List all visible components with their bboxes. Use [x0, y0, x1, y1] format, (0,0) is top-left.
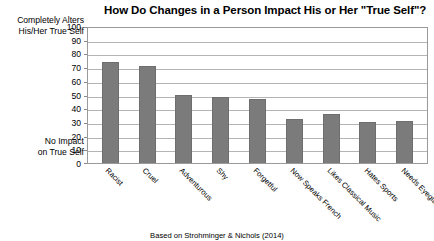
bar-forgetful[interactable] [249, 99, 266, 163]
y-tick-label: 50 [71, 91, 81, 100]
plot-wrapper: 1009080706050403020100 [62, 27, 428, 164]
x-tick-label: Shy [214, 166, 230, 182]
x-axis-labels: RacistCruelAdventurousShyForgetfulNow Sp… [87, 165, 428, 235]
bar-adventurous[interactable] [175, 95, 192, 164]
chart-figure: How Do Changes in a Person Impact His or… [0, 0, 434, 241]
y-tick-label: 60 [71, 78, 81, 87]
x-label-slot: Adventurous [165, 165, 202, 235]
bar-slot [129, 28, 166, 163]
bar-hates-sports[interactable] [359, 122, 376, 163]
bar-shy[interactable] [212, 97, 229, 163]
x-label-slot: Racist [91, 165, 128, 235]
bars-layer [88, 28, 427, 163]
y-axis: 1009080706050403020100 [62, 27, 84, 164]
bar-cruel[interactable] [139, 66, 156, 163]
bar-slot [166, 28, 203, 163]
x-tick-label: Cruel [140, 166, 159, 185]
x-label-slot: Needs Eyeglasses [387, 165, 424, 235]
x-tick-label: Needs Eyeglasses [399, 166, 434, 217]
bar-slot [386, 28, 423, 163]
bar-slot [202, 28, 239, 163]
bar-slot [92, 28, 129, 163]
y-tick-label: 40 [71, 105, 81, 114]
y-tick-label: 20 [71, 132, 81, 141]
x-label-slot: Cruel [128, 165, 165, 235]
bar-slot [276, 28, 313, 163]
x-label-slot: Now Speaks French [276, 165, 313, 235]
y-tick-label: 90 [71, 36, 81, 45]
x-tick-label: Racist [103, 166, 124, 187]
chart-title: How Do Changes in a Person Impact His or… [104, 4, 424, 16]
x-label-slot: Forgetful [239, 165, 276, 235]
bar-racist[interactable] [102, 62, 119, 163]
y-tick-label: 100 [67, 23, 81, 32]
x-tick-label: Forgetful [251, 166, 279, 194]
bar-needs-eyeglasses[interactable] [396, 121, 413, 163]
bar-now-speaks-french[interactable] [286, 119, 303, 163]
y-tick-label: 0 [76, 160, 81, 169]
plot-area [87, 27, 428, 164]
bar-slot [239, 28, 276, 163]
source-note: Based on Strohminger & Nichols (2014) [0, 231, 434, 240]
y-tick-label: 80 [71, 50, 81, 59]
y-tick-label: 70 [71, 64, 81, 73]
y-tick-label: 10 [71, 146, 81, 155]
bar-likes-classical-music[interactable] [323, 114, 340, 163]
bar-slot [349, 28, 386, 163]
x-label-slot: Hates Sports [350, 165, 387, 235]
x-label-slot: Likes Classical Music [313, 165, 350, 235]
y-tick-label: 30 [71, 119, 81, 128]
bar-slot [313, 28, 350, 163]
x-label-slot: Shy [202, 165, 239, 235]
